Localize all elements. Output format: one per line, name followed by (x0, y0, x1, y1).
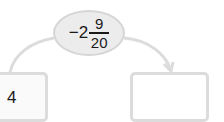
right-answer-box[interactable] (130, 72, 209, 122)
left-answer-box: 4 (0, 72, 48, 122)
denominator: 20 (91, 35, 108, 50)
sign: − (69, 23, 79, 43)
left-box-value: 4 (7, 88, 16, 108)
numerator: 9 (95, 16, 103, 31)
center-node: − 2 9 20 (53, 10, 125, 56)
fraction: 9 20 (89, 16, 109, 50)
mixed-number: − 2 9 20 (69, 16, 109, 50)
whole-part: 2 (79, 23, 88, 43)
